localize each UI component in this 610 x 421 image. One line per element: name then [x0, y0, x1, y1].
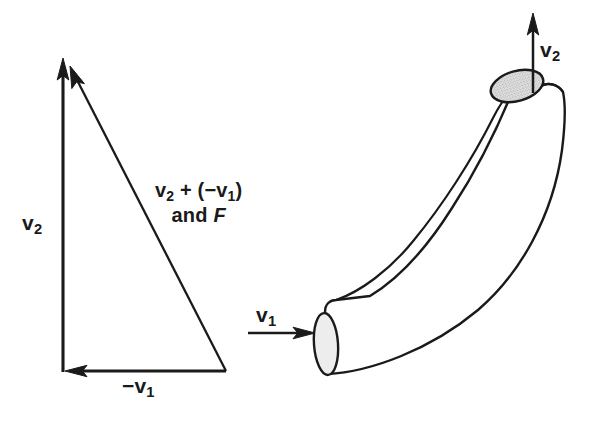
vector-resultant-arrowhead [70, 66, 84, 89]
label-v2-left-subscript: 2 [34, 221, 42, 237]
label-minus-v1-base: v [134, 374, 146, 397]
label-v1-inlet: v1 [256, 303, 276, 329]
pipe-body-outline [324, 84, 565, 374]
label-v2-right-subscript: 2 [552, 48, 560, 64]
label-resultant-line2: and F [155, 204, 242, 226]
label-minus-v1-sign: − [122, 374, 134, 397]
figure-root: v2 −v1 v2 + (−v1) and F v1 v2 [0, 0, 610, 421]
label-resultant: v2 + (−v1) and F [155, 179, 242, 227]
label-v1-inlet-base: v [256, 303, 268, 326]
vector-v2-left [57, 58, 69, 372]
label-v2-left-base: v [22, 211, 34, 234]
label-resultant-v2-base: v [155, 179, 166, 201]
curved-pipe-group [248, 13, 565, 376]
label-resultant-v2-subscript: 2 [166, 188, 174, 204]
label-resultant-and-text: and [171, 204, 213, 226]
label-resultant-operator: + (− [174, 179, 216, 201]
label-resultant-line1: v2 + (−v1) [155, 179, 242, 201]
label-v2-right: v2 [540, 38, 560, 64]
label-resultant-v1-base: v [216, 179, 227, 201]
label-resultant-close-paren: ) [235, 179, 242, 201]
label-v2-left: v2 [22, 211, 42, 237]
label-v1-inlet-subscript: 1 [268, 313, 276, 329]
label-v2-right-base: v [540, 38, 552, 61]
figure-canvas [0, 0, 610, 421]
label-resultant-force-symbol: F [213, 204, 225, 226]
label-minus-v1: −v1 [122, 374, 155, 400]
label-minus-v1-subscript: 1 [146, 384, 154, 400]
